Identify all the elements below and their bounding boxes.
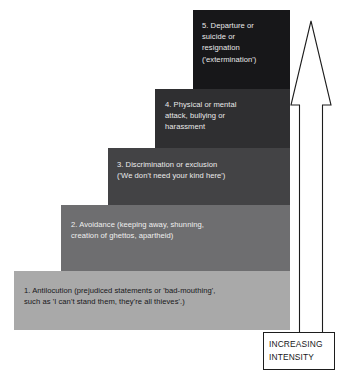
- step-4-label: 4. Physical or mental attack, bullying o…: [165, 99, 286, 133]
- step-1-label: 1. Antilocution (prejudiced statements o…: [24, 285, 286, 307]
- step-1-antilocution: 1. Antilocution (prejudiced statements o…: [14, 271, 290, 330]
- step-2-label: 2. Avoidance (keeping away, shunning, cr…: [71, 219, 286, 241]
- increasing-intensity-arrow: [277, 18, 344, 358]
- step-5-label: 5. Departure or suicide or resignation (…: [202, 20, 286, 65]
- increasing-intensity-label: INCREASING INTENSITY: [263, 332, 335, 370]
- intensity-label-line-1: INCREASING: [269, 339, 323, 350]
- allport-scale-diagram: 1. Antilocution (prejudiced statements o…: [0, 0, 344, 374]
- step-5-extermination: 5. Departure or suicide or resignation (…: [193, 10, 290, 89]
- step-2-avoidance: 2. Avoidance (keeping away, shunning, cr…: [61, 205, 290, 271]
- step-3-label: 3. Discrimination or exclusion ('We don'…: [117, 159, 286, 181]
- step-4-physical-attack: 4. Physical or mental attack, bullying o…: [155, 89, 290, 148]
- intensity-label-line-2: INTENSITY: [269, 352, 314, 363]
- step-3-discrimination: 3. Discrimination or exclusion ('We don'…: [108, 148, 290, 205]
